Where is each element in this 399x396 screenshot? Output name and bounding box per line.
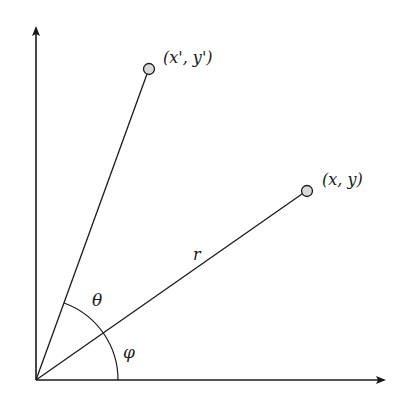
radius-line-rotated [36,74,147,380]
point-rotated-label: (x', y') [163,50,213,66]
phi-label: φ [123,344,135,361]
point-rotated [144,64,155,75]
theta-label: θ [92,292,102,309]
point-original [302,186,313,197]
radius-label: r [193,247,201,263]
radius-line-original [36,194,302,380]
phi-arc [104,334,118,380]
point-original-label: (x, y) [322,172,363,188]
